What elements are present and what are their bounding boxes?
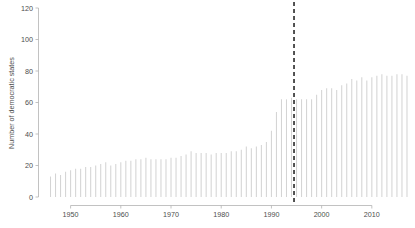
x-tick-label: 1950 <box>63 210 79 219</box>
y-tick-label: 60 <box>25 98 33 107</box>
y-tick-label: 80 <box>25 67 33 76</box>
y-axis: 020406080100120 <box>21 4 39 202</box>
y-tick-label: 120 <box>21 4 33 13</box>
y-tick-label: 20 <box>25 161 33 170</box>
y-axis-title: Number of democratic states <box>7 57 16 149</box>
y-tick-label: 0 <box>29 193 33 202</box>
x-tick-label: 1970 <box>163 210 179 219</box>
x-tick-label: 2000 <box>314 210 330 219</box>
x-tick-label: 1980 <box>213 210 229 219</box>
x-tick-label: 1990 <box>263 210 279 219</box>
bar-chart: 020406080100120 195019601970198019902000… <box>0 0 415 228</box>
x-tick-label: 1960 <box>113 210 129 219</box>
x-tick-label: 2010 <box>364 210 380 219</box>
x-axis: 1950196019701980199020002010 <box>63 206 380 220</box>
chart-figure: 020406080100120 195019601970198019902000… <box>0 0 415 228</box>
bar-series <box>51 74 407 197</box>
y-tick-label: 100 <box>21 35 33 44</box>
y-tick-label: 40 <box>25 130 33 139</box>
